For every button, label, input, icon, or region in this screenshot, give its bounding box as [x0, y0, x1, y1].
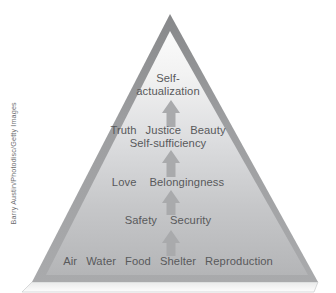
pyramid-base-shelf: [22, 282, 318, 292]
photo-credit: Barry Austin/Photodisc/Getty Images: [9, 105, 18, 225]
maslow-pyramid-figure: Self- actualization TruthJusticeBeauty S…: [0, 0, 336, 293]
pyramid-graphic: [0, 0, 336, 293]
pyramid-inner-face: [46, 31, 308, 275]
